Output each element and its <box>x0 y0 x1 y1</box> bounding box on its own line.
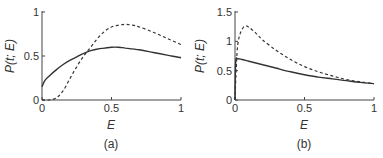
y-tick-label: 0.5 <box>217 65 232 77</box>
y-tick-label: 0.5 <box>24 50 39 62</box>
panel-label: (b) <box>297 137 312 151</box>
y-tick-label: 1 <box>226 35 232 47</box>
x-axis-label: E <box>300 118 309 132</box>
figure: 00.5100.51 E P(t; E) (a) 00.5100.511.5 E… <box>0 0 383 158</box>
x-tick-label: 0.5 <box>104 102 119 114</box>
x-tick-label: 0.5 <box>297 102 312 114</box>
y-tick-label: 1 <box>33 6 39 18</box>
y-axis-label: P(t; E) <box>193 39 207 73</box>
y-tick-label: 0 <box>33 94 39 106</box>
dashed-series-line <box>42 24 181 100</box>
panel-label: (a) <box>104 137 119 151</box>
x-tick-label: 0 <box>232 102 238 114</box>
y-tick-label: 1.5 <box>217 6 232 18</box>
solid-series-line <box>235 58 374 100</box>
axis-ticks: 00.5100.51 <box>24 6 184 114</box>
x-tick-label: 1 <box>371 102 377 114</box>
y-axis-label: P(t; E) <box>3 39 17 73</box>
axis-ticks: 00.5100.511.5 <box>217 6 377 114</box>
chart-panel-a: 00.5100.51 E P(t; E) (a) <box>3 6 184 151</box>
x-axis-label: E <box>107 118 116 132</box>
solid-series-line <box>42 47 181 87</box>
x-tick-label: 1 <box>178 102 184 114</box>
chart-panel-b: 00.5100.511.5 E P(t; E) (b) <box>193 6 377 151</box>
y-tick-label: 0 <box>226 94 232 106</box>
x-tick-label: 0 <box>39 102 45 114</box>
